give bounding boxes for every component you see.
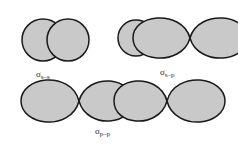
sigma-subscript: s–p xyxy=(165,71,175,79)
sigma-p-p-label: σp–p xyxy=(95,121,110,138)
sigma-subscript: s–s xyxy=(41,73,50,81)
sigma-s-p-label: σs–p xyxy=(160,62,175,79)
s-orbital-circle-right xyxy=(47,19,89,61)
sigma-s-s-diagram xyxy=(22,19,89,61)
p-orbital-lobe-outer-right xyxy=(167,80,225,122)
orbital-overlap-figure: σs–s σs–p σp–p xyxy=(0,0,238,146)
p-orbital-lobe-inner-right xyxy=(114,81,167,121)
sigma-s-p-diagram xyxy=(118,18,238,58)
sigma-s-s-label: σs–s xyxy=(36,64,50,81)
p-orbital-lobe-right xyxy=(190,18,238,58)
sigma-subscript: p–p xyxy=(100,130,111,138)
p-orbital-lobe-outer-left xyxy=(21,80,79,122)
sigma-p-p-diagram xyxy=(21,80,225,122)
p-orbital-lobe-left xyxy=(133,18,190,58)
